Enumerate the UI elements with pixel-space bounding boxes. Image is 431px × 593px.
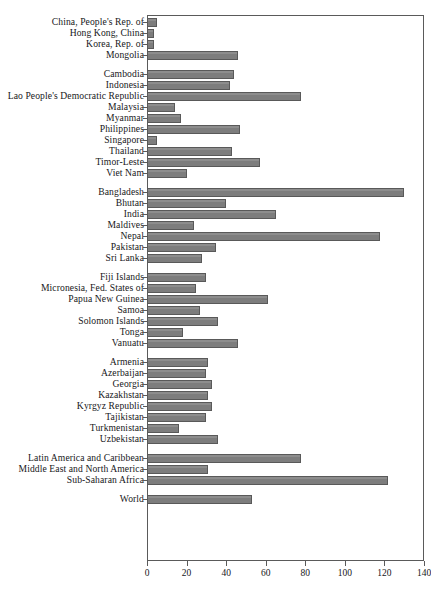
bar-row-label: Vanuatu [112,337,144,348]
bar-row: Vanuatu [0,338,431,349]
bar [147,81,230,90]
bar-row-label: Kyrgyz Republic [77,400,144,411]
bar-row-label: Turkmenistan [90,422,144,433]
bar-row: China, People's Rep. of [0,17,431,28]
bar-row-label: Bangladesh [98,186,144,197]
bar-row: Cambodia [0,69,431,80]
bar-row-label: Azerbaijan [101,367,144,378]
bar [147,454,301,463]
bar [147,273,206,282]
bar-row: Samoa [0,305,431,316]
bar-row-label: Philippines [100,123,144,134]
bar [147,147,232,156]
bar [147,369,206,378]
bar-row: Malaysia [0,102,431,113]
bar-row: Tonga [0,327,431,338]
x-axis-tick [226,561,227,566]
bar-row-label: Malaysia [108,101,144,112]
x-axis-tick [266,561,267,566]
bar-row: Bangladesh [0,187,431,198]
bar-row: Kyrgyz Republic [0,401,431,412]
bar-row: India [0,209,431,220]
bar [147,221,194,230]
bar-row: Lao People's Democratic Republic [0,91,431,102]
bar [147,402,212,411]
bar-row: World [0,494,431,505]
bar-row-label: Indonesia [106,79,144,90]
bar-chart: China, People's Rep. ofHong Kong, ChinaK… [0,0,431,593]
bar-row: Armenia [0,357,431,368]
bar-row-label: Papua New Guinea [68,293,144,304]
bar-row-label: Tonga [120,326,144,337]
bar-row: Kazakhstan [0,390,431,401]
bar [147,243,216,252]
bar-row-label: Cambodia [104,68,144,79]
x-axis-tick [424,561,425,566]
x-axis-tick-label: 80 [301,567,311,579]
bar-row-label: Latin America and Caribbean [28,452,144,463]
x-axis: 020406080100120140 [147,561,424,591]
chart-title [0,0,431,4]
bar-row-label: Hong Kong, China [70,27,144,38]
bar-row-label: Viet Nam [106,167,144,178]
bar-row-label: Nepal [121,230,144,241]
bar [147,339,238,348]
bar-row: Sub-Saharan Africa [0,475,431,486]
bar [147,380,212,389]
bar [147,306,200,315]
bar-row-label: Tajikistan [105,411,144,422]
bar-row-label: Thailand [109,145,144,156]
bar [147,465,208,474]
bar [147,70,234,79]
bar [147,232,380,241]
bar-row: Korea, Rep. of [0,39,431,50]
bar-row-label: Solomon Islands [78,315,144,326]
x-axis-tick-label: 120 [377,567,391,579]
bar-row-label: Georgia [113,378,144,389]
x-axis-tick-label: 60 [261,567,271,579]
bar-row: Solomon Islands [0,316,431,327]
bar-row: Micronesia, Fed. States of [0,283,431,294]
bar-row-label: Armenia [110,356,144,367]
bar [147,40,154,49]
bar [147,254,202,263]
x-axis-tick-label: 140 [417,567,431,579]
bar [147,29,154,38]
bar-row: Turkmenistan [0,423,431,434]
bar-row-label: Pakistan [111,241,144,252]
bar [147,210,276,219]
bar-row: Maldives [0,220,431,231]
bar-row: Thailand [0,146,431,157]
x-axis-tick [187,561,188,566]
bar [147,92,301,101]
bar-row: Hong Kong, China [0,28,431,39]
bar-row: Bhutan [0,198,431,209]
bar-row: Philippines [0,124,431,135]
x-axis-tick-label: 100 [338,567,352,579]
x-axis-tick [345,561,346,566]
bar [147,158,260,167]
bar-row: Tajikistan [0,412,431,423]
x-axis-tick-label: 40 [221,567,231,579]
bar [147,18,157,27]
bar-row: Timor-Leste [0,157,431,168]
bar-row-label: Sri Lanka [106,252,144,263]
bar [147,424,179,433]
bar-row-label: Samoa [117,304,144,315]
x-axis-tick [305,561,306,566]
bar [147,188,404,197]
x-axis-tick [384,561,385,566]
bar-row-label: Timor-Leste [95,156,144,167]
bar [147,391,208,400]
bar-row-label: Kazakhstan [98,389,144,400]
bar [147,199,226,208]
bar [147,51,238,60]
bar-row-label: Lao People's Democratic Republic [8,90,144,101]
bar-row-label: World [120,493,144,504]
bar-row: Uzbekistan [0,434,431,445]
bar-row: Pakistan [0,242,431,253]
x-axis-tick-label: 20 [182,567,192,579]
bar [147,435,218,444]
bar-row-label: Bhutan [116,197,144,208]
bar-row: Sri Lanka [0,253,431,264]
